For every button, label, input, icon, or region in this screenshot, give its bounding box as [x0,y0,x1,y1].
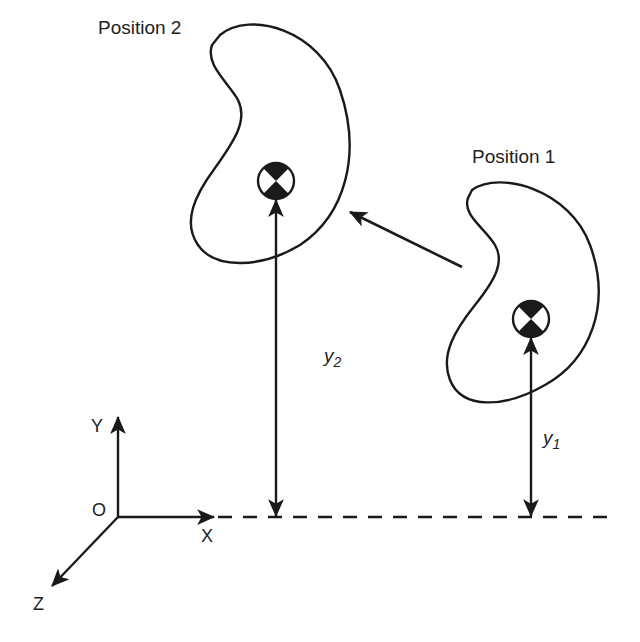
z-axis-arrow [52,517,118,586]
label-axis-y: Y [91,416,103,436]
body-position-2 [191,24,350,263]
body-outline-position-2 [191,24,350,263]
label-position-1: Position 1 [472,146,555,167]
label-origin: O [92,500,106,520]
body-position-1 [447,182,599,402]
label-y2: y2 [322,345,342,370]
label-axis-x: X [201,526,213,546]
label-position-2: Position 2 [98,17,181,38]
diagram-canvas: Position 2 Position 1 y2 y1 Y O X Z [0,0,640,642]
motion-arrow-icon [350,212,462,267]
body-outline-position-1 [447,182,599,402]
label-axis-z: Z [33,594,44,614]
center-of-mass-icon [513,301,549,337]
coordinate-axes [52,417,214,586]
center-of-mass-icon [258,163,294,199]
label-y1: y1 [541,427,560,452]
